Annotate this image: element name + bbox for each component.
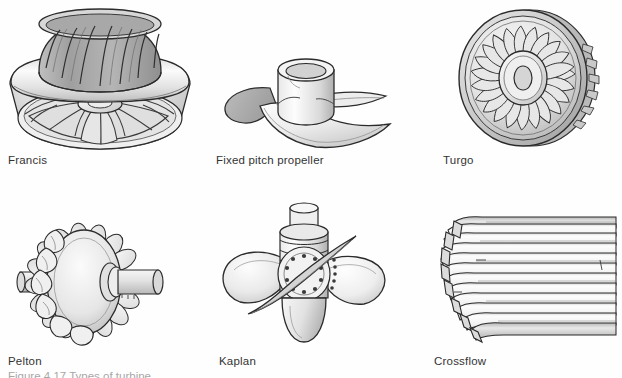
turgo-turbine-runner-illustration: [443, 8, 613, 150]
caption-crossflow: Crossflow: [434, 355, 486, 367]
crossflow-turbine-illustration: [430, 208, 620, 350]
caption-turgo: Turgo: [443, 154, 474, 166]
pelton-wheel-illustration: [18, 216, 173, 348]
figure-caption-partial: Figure 4.17 Types of turbine: [8, 370, 151, 378]
caption-fixed-pitch-propeller: Fixed pitch propeller: [216, 154, 324, 166]
caption-pelton: Pelton: [8, 355, 42, 367]
kaplan-turbine-illustration: [214, 202, 394, 350]
caption-kaplan: Kaplan: [219, 355, 256, 367]
caption-francis: Francis: [8, 154, 47, 166]
francis-turbine-runner-illustration: [5, 6, 195, 151]
fixed-pitch-propeller-illustration: [200, 46, 395, 151]
turbine-types-figure: Francis: [0, 0, 622, 378]
